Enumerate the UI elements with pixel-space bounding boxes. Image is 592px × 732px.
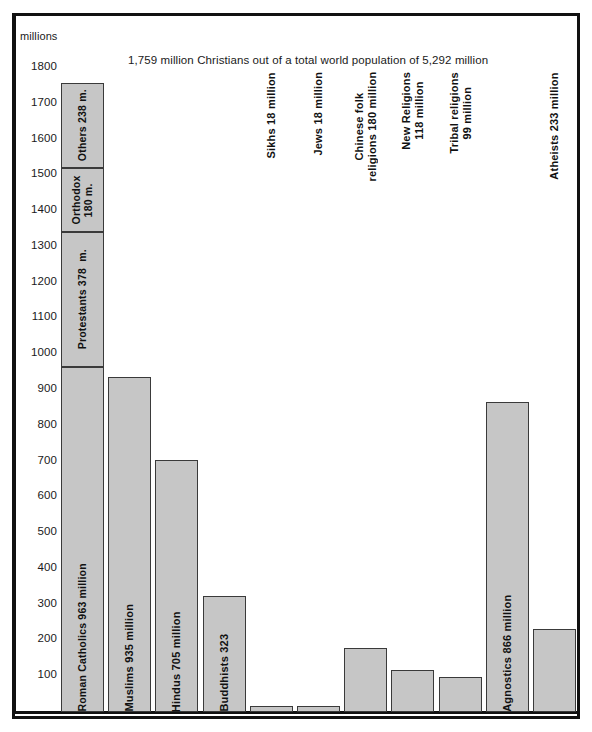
y-axis-tick-400: 400 (17, 561, 57, 573)
bar-label-new-religions: New Religions 118 million (391, 68, 434, 666)
bar-atheists (533, 629, 576, 712)
y-axis-tick-1100: 1100 (17, 310, 57, 322)
bar-tribal-religions (439, 677, 482, 712)
y-axis-tick-100: 100 (17, 668, 57, 680)
bar-label-hindus: Hindus 705 million (155, 460, 198, 712)
bar-jews (297, 706, 340, 712)
bar-chinese-folk-religions (344, 648, 387, 712)
y-axis-tick-1200: 1200 (17, 275, 57, 287)
chart-page: millions 1,759 million Christians out of… (0, 0, 592, 732)
y-axis-tick-1700: 1700 (17, 96, 57, 108)
bar-label-sikhs: Sikhs 18 million (250, 68, 293, 702)
bar-new-religions (391, 670, 434, 712)
bar-label-muslims: Muslims 935 million (108, 377, 151, 712)
bar-label-tribal-religions: Tribal religions 99 million (439, 68, 482, 673)
y-axis-tick-200: 200 (17, 632, 57, 644)
y-axis-tick-1800: 1800 (17, 60, 57, 72)
bar-sikhs (250, 706, 293, 712)
y-axis-tick-500: 500 (17, 525, 57, 537)
y-axis-tick-300: 300 (17, 597, 57, 609)
bar-segment-label-roman-catholics: Roman Catholics 963 million (61, 367, 104, 712)
bar-label-agnostics: Agnostics 866 million (486, 402, 529, 712)
y-axis-tick-600: 600 (17, 489, 57, 501)
bar-label-atheists: Atheists 233 million (533, 68, 576, 625)
y-axis-tick-800: 800 (17, 418, 57, 430)
bar-segment-label-protestants: Protestants 378 m. (61, 232, 104, 367)
bar-segment-label-orthodox: Orthodox 180 m. (61, 168, 104, 232)
y-axis-tick-1300: 1300 (17, 239, 57, 251)
y-axis-line (13, 14, 16, 714)
bar-label-chinese-folk-religions: Chinese folk religions 180 million (344, 68, 387, 644)
y-axis-tick-1000: 1000 (17, 346, 57, 358)
y-axis-tick-1500: 1500 (17, 167, 57, 179)
bar-label-jews: Jews 18 million (297, 68, 340, 702)
y-axis-tick-900: 900 (17, 382, 57, 394)
y-axis-tick-1600: 1600 (17, 132, 57, 144)
bar-label-buddhists: Buddhists 323 (203, 596, 246, 712)
y-axis-tick-700: 700 (17, 454, 57, 466)
plot-area: 1800170016001500140013001200110010009008… (0, 0, 592, 732)
bar-segment-label-others: Others 238 m. (61, 83, 104, 168)
y-axis-tick-1400: 1400 (17, 203, 57, 215)
